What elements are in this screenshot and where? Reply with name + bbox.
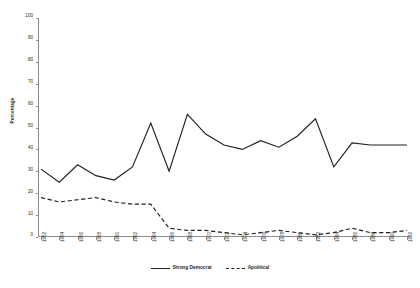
x-axis-ticks: 1952195419561958196019621964196619681970… [38,238,410,264]
x-axis-tick-label: 1968 [189,232,194,242]
y-axis-tick-label: 0 [30,233,33,238]
legend-item-strong-democrat: Strong Democrat [151,266,212,271]
x-axis-tick-label: 1962 [134,232,139,242]
y-axis-tick-label: 50 [28,124,33,129]
y-axis-tick-label: 10 [28,212,33,217]
x-axis-tick-label: 1964 [153,232,158,242]
x-axis-tick-label: 1966 [171,232,176,242]
x-axis-tick-label: 1992 [409,232,414,242]
legend-swatch [226,268,245,269]
y-axis-title: Percentage [10,81,15,141]
x-axis-tick-label: 1958 [98,232,103,242]
x-axis-tick-label: 1990 [391,232,396,242]
line-chart: Percentage 0102030405060708090100 195219… [0,0,420,288]
series-container [38,18,410,237]
plot-area: 0102030405060708090100 [38,18,410,237]
x-axis-tick-label: 1986 [354,232,359,242]
legend-label: Apolitical [248,266,270,271]
y-axis-tick-label: 80 [28,58,33,63]
x-axis-tick-label: 1974 [244,232,249,242]
legend-swatch [151,268,170,269]
y-axis-tick-label: 40 [28,146,33,151]
legend-label: Strong Democrat [173,266,212,271]
y-axis-tick-label: 90 [28,36,33,41]
x-axis-tick-label: 1976 [263,232,268,242]
x-axis-tick-label: 1970 [208,232,213,242]
y-axis-tick-label: 20 [28,190,33,195]
x-axis-tick-label: 1956 [80,232,85,242]
x-axis-tick-label: 1954 [61,232,66,242]
y-axis-tick-label: 60 [28,102,33,107]
legend-item-apolitical: Apolitical [226,266,270,271]
y-axis-tick-label: 70 [28,80,33,85]
x-axis-tick-label: 1960 [116,232,121,242]
x-axis-tick-label: 1988 [372,232,377,242]
series-line-apolitical [41,198,407,235]
y-axis-tick-label: 30 [28,168,33,173]
x-axis-tick-label: 1980 [299,232,304,242]
x-axis-tick-label: 1978 [281,232,286,242]
x-axis-tick-label: 1952 [43,232,48,242]
x-axis-tick-label: 1982 [317,232,322,242]
chart-legend: Strong DemocratApolitical [0,266,420,271]
x-axis-tick-label: 1972 [226,232,231,242]
y-axis-tick-label: 100 [25,14,33,19]
x-axis-tick-label: 1984 [336,232,341,242]
series-line-strong-democrat [41,114,407,182]
